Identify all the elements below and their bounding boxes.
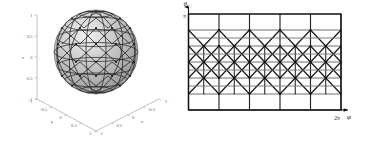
z-tick-label-0_5: 0.5 [27, 34, 33, 39]
y-tick-label-neg0_5: -0.5 [40, 107, 48, 112]
z-axis-label: z [22, 55, 24, 60]
y-tick-label-0_5: 0.5 [71, 123, 77, 128]
x-tick-group [96, 99, 161, 132]
theta-axis-label: θ [183, 0, 187, 8]
phi-axis-label: φ [347, 113, 351, 121]
y-tick-label-neg1: -1 [29, 99, 33, 104]
z-tick-label-0: 0 [30, 55, 33, 60]
x-tick-label-0: 0 [132, 115, 135, 120]
z-tick-label-1: 1 [30, 13, 32, 18]
phi-max-label: 2π [334, 115, 340, 121]
y-axis-label: y [51, 119, 54, 124]
figure-root: 1 0.5 0 -0.5 -1 z -1 -0.5 0 0.5 1 y [0, 0, 371, 143]
x-tick-label-neg1: -1 [164, 99, 168, 104]
z-tick-group [35, 15, 37, 99]
y-tick-label-1: 1 [89, 131, 91, 136]
sphere-plot-svg: 1 0.5 0 -0.5 -1 z -1 -0.5 0 0.5 1 y [0, 0, 186, 143]
y-tick-group [35, 99, 96, 132]
mesh-panel: θ π 2π φ [182, 0, 371, 143]
sphere-panel: 1 0.5 0 -0.5 -1 z -1 -0.5 0 0.5 1 y [0, 0, 186, 143]
y-tick-label-0: 0 [60, 115, 63, 120]
domain-mesh-svg: θ π 2π φ [182, 0, 371, 143]
x-tick-label-neg0_5: -0.5 [148, 107, 156, 112]
theta-max-label: π [183, 13, 186, 19]
z-tick-label-neg0_5: -0.5 [26, 76, 34, 81]
x-tick-label-1: 1 [101, 131, 103, 136]
x-tick-label-0_5: 0.5 [116, 123, 122, 128]
x-axis-label: x [141, 119, 144, 124]
